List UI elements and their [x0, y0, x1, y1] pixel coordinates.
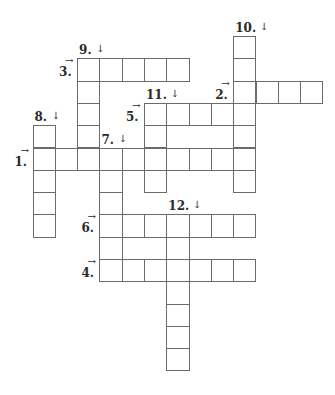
crossword-cell[interactable] [33, 170, 56, 193]
crossword-cell[interactable] [77, 58, 100, 81]
crossword-cell[interactable] [122, 148, 145, 171]
crossword-cell[interactable] [166, 237, 189, 260]
crossword-cell[interactable] [233, 259, 256, 282]
clue-number-2-across: 2. [215, 89, 228, 101]
crossword-cell[interactable] [99, 259, 122, 282]
crossword-cell[interactable] [166, 304, 189, 327]
crossword-cell[interactable] [211, 214, 234, 237]
arrow-right-icon: → [87, 212, 95, 222]
crossword-cell[interactable] [99, 148, 122, 171]
crossword-cell[interactable] [55, 148, 78, 171]
crossword-cell[interactable] [166, 326, 189, 349]
crossword-cell[interactable] [144, 214, 167, 237]
crossword-cell[interactable] [233, 214, 256, 237]
crossword-cell[interactable] [122, 214, 145, 237]
crossword-cell[interactable] [99, 58, 122, 81]
crossword-cell[interactable] [189, 214, 212, 237]
crossword-cell[interactable] [233, 58, 256, 81]
crossword-cell[interactable] [189, 148, 212, 171]
crossword-cell[interactable] [33, 125, 56, 148]
clue-number-1-across: 1. [15, 156, 28, 168]
crossword-cell[interactable] [166, 214, 189, 237]
crossword-cell[interactable] [211, 259, 234, 282]
crossword-cell[interactable] [99, 214, 122, 237]
crossword-cell[interactable] [233, 148, 256, 171]
crossword-cell[interactable] [144, 58, 167, 81]
arrow-right-icon: → [65, 56, 73, 66]
clue-number-5-across: 5. [126, 111, 139, 123]
crossword-cell[interactable] [278, 81, 301, 104]
crossword-cell[interactable] [33, 148, 56, 171]
arrow-down-icon: ↓ [96, 44, 104, 54]
crossword-cell[interactable] [166, 103, 189, 126]
crossword-cell[interactable] [233, 81, 256, 104]
crossword-cell[interactable] [189, 103, 212, 126]
crossword-cell[interactable] [99, 170, 122, 193]
crossword-cell[interactable] [233, 170, 256, 193]
arrow-right-icon: → [132, 101, 140, 111]
crossword-cell[interactable] [144, 103, 167, 126]
arrow-right-icon: → [87, 257, 95, 267]
crossword-cell[interactable] [166, 58, 189, 81]
crossword-cell[interactable] [77, 103, 100, 126]
clue-number-10-down: 10. [235, 22, 256, 34]
crossword-cell[interactable] [144, 125, 167, 148]
crossword-cell[interactable] [189, 259, 212, 282]
arrow-down-icon: ↓ [171, 89, 179, 99]
crossword-cell[interactable] [144, 259, 167, 282]
crossword-cell[interactable] [166, 259, 189, 282]
clue-number-11-down: 11. [146, 89, 167, 101]
clue-number-4-across: 4. [81, 267, 94, 279]
crossword-cell[interactable] [144, 148, 167, 171]
crossword-cell[interactable] [256, 81, 279, 104]
crossword-cell[interactable] [211, 103, 234, 126]
crossword-cell[interactable] [33, 192, 56, 215]
crossword-cell[interactable] [166, 148, 189, 171]
crossword-cell[interactable] [122, 58, 145, 81]
arrow-right-icon: → [221, 79, 229, 89]
crossword-cell[interactable] [99, 192, 122, 215]
crossword-cell[interactable] [144, 170, 167, 193]
clue-number-12-down: 12. [168, 200, 189, 212]
crossword-cell[interactable] [122, 259, 145, 282]
clue-number-6-across: 6. [81, 222, 94, 234]
clue-number-7-down: 7. [101, 134, 114, 146]
crossword-cell[interactable] [233, 103, 256, 126]
crossword-cell[interactable] [211, 148, 234, 171]
clue-number-3-across: 3. [59, 66, 72, 78]
clue-number-8-down: 8. [35, 111, 48, 123]
crossword-cell[interactable] [166, 348, 189, 371]
arrow-down-icon: ↓ [118, 134, 126, 144]
crossword-grid: 1.→2.→3.→4.→5.→6.→7.↓8.↓9.↓10.↓11.↓12.↓ [0, 0, 335, 395]
arrow-down-icon: ↓ [52, 111, 60, 121]
crossword-cell[interactable] [77, 125, 100, 148]
crossword-cell[interactable] [300, 81, 323, 104]
crossword-cell[interactable] [77, 81, 100, 104]
crossword-cell[interactable] [77, 148, 100, 171]
crossword-cell[interactable] [233, 36, 256, 59]
clue-number-9-down: 9. [79, 44, 92, 56]
arrow-right-icon: → [21, 146, 29, 156]
crossword-cell[interactable] [33, 214, 56, 237]
arrow-down-icon: ↓ [193, 200, 201, 210]
crossword-cell[interactable] [166, 281, 189, 304]
crossword-cell[interactable] [233, 125, 256, 148]
crossword-cell[interactable] [99, 237, 122, 260]
arrow-down-icon: ↓ [260, 22, 268, 32]
